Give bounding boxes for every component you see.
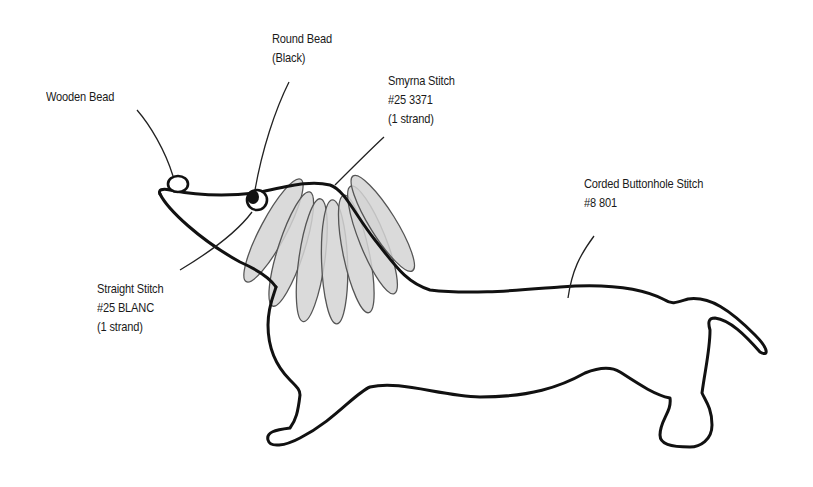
label-line: (1 strand) <box>97 317 163 336</box>
label-line: #25 BLANC <box>97 298 163 317</box>
label-smyrna-stitch: Smyrna Stitch #25 3371 (1 strand) <box>388 71 455 128</box>
label-line: #25 3371 <box>388 90 455 109</box>
label-round-bead: Round Bead (Black) <box>272 29 332 67</box>
label-wooden-bead: Wooden Bead <box>46 87 114 106</box>
label-line: Round Bead <box>272 29 332 48</box>
round-bead-shape <box>247 190 267 210</box>
label-line: (Black) <box>272 48 332 67</box>
label-line: (1 strand) <box>388 109 455 128</box>
label-corded-buttonhole-stitch: Corded Buttonhole Stitch #8 801 <box>584 174 703 212</box>
wooden-bead-shape <box>168 176 188 192</box>
label-line: Corded Buttonhole Stitch <box>584 174 703 193</box>
embroidery-diagram: Wooden Bead Round Bead (Black) Smyrna St… <box>0 0 813 487</box>
label-straight-stitch: Straight Stitch #25 BLANC (1 strand) <box>97 279 163 336</box>
dog-outline <box>159 183 766 447</box>
label-line: Smyrna Stitch <box>388 71 455 90</box>
label-line: Wooden Bead <box>46 87 114 106</box>
label-line: #8 801 <box>584 193 703 212</box>
label-line: Straight Stitch <box>97 279 163 298</box>
